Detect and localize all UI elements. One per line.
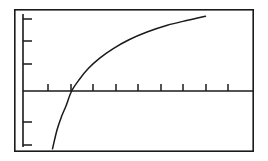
plot-frame-border [15, 10, 253, 151]
coordinate-plot [0, 0, 268, 161]
y-axis-ticks [23, 19, 32, 145]
graph-figure: Graph of a logarithmic curve on a framed… [0, 0, 268, 161]
logarithmic-curve [53, 16, 206, 149]
